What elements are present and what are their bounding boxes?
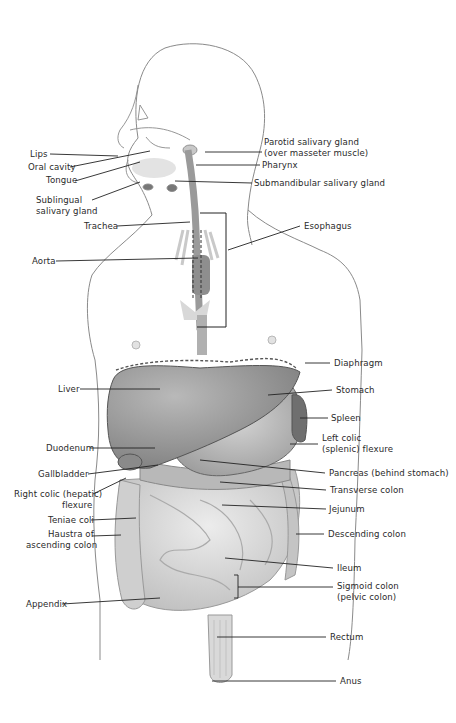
label-pharynx: Pharynx [262, 160, 298, 171]
label-jejunum: Jejunum [329, 504, 365, 515]
label-gallbladder: Gallbladder [38, 469, 89, 480]
label-teniae-coli: Teniae coli [48, 515, 94, 526]
intestines [115, 460, 300, 610]
label-tongue: Tongue [46, 175, 77, 186]
label-descending-colon: Descending colon [328, 529, 406, 540]
esophagus-column [176, 150, 226, 355]
label-diaphragm: Diaphragm [334, 358, 383, 369]
label-duodenum: Duodenum [46, 443, 94, 454]
label-sigmoid-colon: Sigmoid colon [337, 581, 399, 592]
label-left-colic: Left colic [322, 433, 361, 444]
label-aorta: Aorta [32, 256, 56, 267]
label-pancreas: Pancreas (behind stomach) [329, 468, 449, 479]
label-parotid: Parotid salivary gland [264, 137, 359, 148]
label-submandibular: Submandibular salivary gland [254, 178, 385, 189]
label-transverse-colon: Transverse colon [330, 485, 404, 496]
label-esophagus: Esophagus [304, 221, 352, 232]
head-structures [118, 85, 197, 192]
label-anus: Anus [340, 676, 362, 687]
label-oral-cavity: Oral cavity [28, 162, 76, 173]
label-parotid-2: (over masseter muscle) [264, 148, 368, 159]
label-haustra-2: ascending colon [26, 540, 97, 551]
label-sublingual: Sublingual [36, 195, 82, 206]
digestive-system-diagram: Lips Oral cavity Tongue Sublingual saliv… [0, 0, 456, 723]
label-ileum: Ileum [337, 563, 362, 574]
label-stomach: Stomach [336, 385, 375, 396]
label-sublingual-2: salivary gland [36, 206, 98, 217]
label-haustra: Haustra of [48, 529, 94, 540]
label-trachea: Trachea [84, 221, 118, 232]
label-right-colic-2: flexure [62, 500, 92, 511]
anatomy-illustration [0, 0, 456, 723]
label-lips: Lips [30, 149, 48, 160]
label-appendix: Appendix [26, 599, 67, 610]
label-spleen: Spleen [331, 413, 361, 424]
label-sigmoid-colon-2: (pelvic colon) [337, 592, 396, 603]
label-left-colic-2: (splenic) flexure [322, 444, 393, 455]
label-right-colic: Right colic (hepatic) [14, 489, 102, 500]
label-rectum: Rectum [330, 632, 363, 643]
label-liver: Liver [58, 384, 80, 395]
